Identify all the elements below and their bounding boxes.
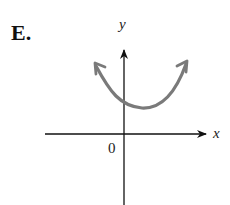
parabola-curve (96, 64, 186, 108)
graph-canvas (0, 0, 230, 205)
origin-label: 0 (108, 140, 116, 157)
x-axis-label: x (213, 125, 220, 142)
graph-figure: E. y x 0 (0, 0, 230, 205)
y-axis-label: y (119, 16, 126, 33)
